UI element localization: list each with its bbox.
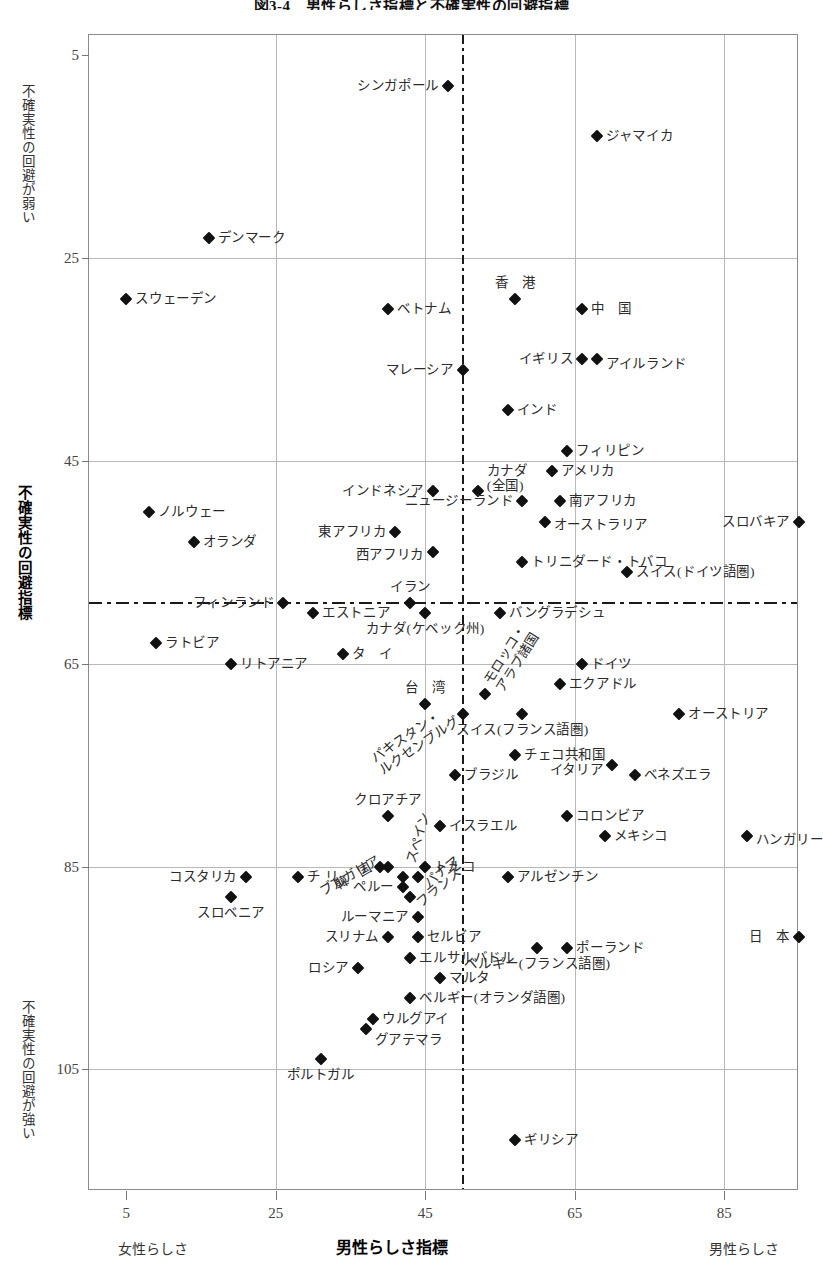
data-point-label: コスタリカ — [169, 869, 237, 884]
data-point-marker[interactable] — [277, 596, 290, 609]
data-point-marker[interactable] — [516, 556, 529, 569]
data-point-marker[interactable] — [441, 79, 454, 92]
data-point-marker[interactable] — [740, 830, 753, 843]
data-point-marker[interactable] — [225, 891, 238, 904]
data-point-marker[interactable] — [352, 962, 365, 975]
data-point-marker[interactable] — [404, 951, 417, 964]
data-point-marker[interactable] — [389, 526, 402, 539]
data-point-marker[interactable] — [404, 596, 417, 609]
data-point-label: エルサルバドル — [419, 950, 514, 965]
data-point-marker[interactable] — [187, 536, 200, 549]
data-point-label: マルタ — [449, 971, 490, 986]
data-point-marker[interactable] — [546, 465, 559, 478]
data-point-marker[interactable] — [359, 1022, 372, 1035]
data-point-label: ロシア — [308, 960, 349, 975]
data-point-marker[interactable] — [494, 607, 507, 620]
y-axis-tick-mark — [82, 664, 89, 665]
data-point-marker[interactable] — [404, 992, 417, 1005]
data-point-marker[interactable] — [793, 931, 806, 944]
y-axis-lower-band-label: 不確実性の回避が強い — [14, 1000, 34, 1140]
data-point-marker[interactable] — [120, 292, 133, 305]
data-point-marker[interactable] — [314, 1053, 327, 1066]
data-point-marker[interactable] — [576, 353, 589, 366]
data-point-marker[interactable] — [411, 931, 424, 944]
data-point-marker[interactable] — [576, 302, 589, 315]
data-point-marker[interactable] — [501, 870, 514, 883]
data-point-marker[interactable] — [516, 708, 529, 721]
data-point-marker[interactable] — [411, 911, 424, 924]
data-point-marker[interactable] — [202, 231, 215, 244]
gridline-vertical — [276, 35, 277, 1189]
data-point-marker[interactable] — [479, 688, 492, 701]
data-point-marker[interactable] — [456, 708, 469, 721]
data-point-label: エストニア — [322, 606, 390, 621]
x-axis-tick-mark — [276, 1191, 277, 1200]
data-point-marker[interactable] — [561, 444, 574, 457]
data-point-marker[interactable] — [509, 749, 522, 762]
data-point-label: シンガポール — [357, 78, 439, 93]
data-point-label: スペイン — [405, 810, 434, 864]
data-point-label: コロンビア — [576, 808, 644, 823]
data-point-marker[interactable] — [307, 607, 320, 620]
data-point-label: スウェーデン — [135, 291, 217, 306]
data-point-label: スイス(ドイツ語圏) — [636, 565, 755, 580]
data-point-marker[interactable] — [539, 515, 552, 528]
data-point-marker[interactable] — [142, 505, 155, 518]
data-point-marker[interactable] — [576, 657, 589, 670]
x-axis-tick-mark — [425, 1191, 426, 1200]
data-point-marker[interactable] — [434, 972, 447, 985]
data-point-marker[interactable] — [606, 759, 619, 772]
data-point-marker[interactable] — [673, 708, 686, 721]
data-point-marker[interactable] — [240, 870, 253, 883]
data-point-marker[interactable] — [382, 809, 395, 822]
data-point-label: イタリア — [550, 762, 603, 777]
data-point-marker[interactable] — [382, 931, 395, 944]
data-point-marker[interactable] — [292, 870, 305, 883]
data-point-marker[interactable] — [509, 292, 522, 305]
data-point-label: モロッコ・アラブ諸国 — [482, 623, 542, 695]
data-point-marker[interactable] — [531, 941, 544, 954]
data-point-marker[interactable] — [397, 880, 410, 893]
data-point-label: マレーシア — [386, 362, 454, 377]
data-point-marker[interactable] — [561, 809, 574, 822]
data-point-label: ペルー — [353, 879, 394, 894]
x-axis-tick-label: 25 — [256, 1205, 296, 1222]
data-point-label: スロバキア — [722, 514, 790, 529]
data-point-marker[interactable] — [516, 495, 529, 508]
data-point-marker[interactable] — [598, 830, 611, 843]
data-point-marker[interactable] — [793, 515, 806, 528]
data-point-marker[interactable] — [553, 678, 566, 691]
data-point-marker[interactable] — [456, 363, 469, 376]
data-point-label: スロベニア — [197, 906, 265, 921]
data-point-marker[interactable] — [150, 637, 163, 650]
y-axis-tick-mark — [82, 258, 89, 259]
data-point-label: ニュージーランド — [405, 494, 514, 509]
y-axis-tick-label: 45 — [45, 452, 79, 469]
data-point-marker[interactable] — [434, 820, 447, 833]
data-point-marker[interactable] — [501, 404, 514, 417]
data-point-label: イラン — [390, 579, 431, 594]
data-point-marker[interactable] — [419, 607, 432, 620]
y-axis-tick-label: 5 — [45, 47, 79, 64]
data-point-marker[interactable] — [509, 1134, 522, 1147]
data-point-marker[interactable] — [382, 302, 395, 315]
data-point-label: ドイツ — [591, 656, 632, 671]
data-point-label: チリ — [307, 869, 343, 884]
data-point-marker[interactable] — [419, 698, 432, 711]
data-point-marker[interactable] — [337, 647, 350, 660]
y-axis-tick-label: 85 — [45, 858, 79, 875]
data-point-marker[interactable] — [561, 941, 574, 954]
data-point-marker[interactable] — [225, 657, 238, 670]
data-point-marker[interactable] — [553, 495, 566, 508]
data-point-marker[interactable] — [426, 546, 439, 559]
data-point-label: フィリピン — [576, 443, 644, 458]
data-point-marker[interactable] — [628, 769, 641, 782]
plot-area: 525456585105525456585シンガポールジャマイカデンマークスウェ… — [88, 34, 798, 1190]
data-point-marker[interactable] — [591, 130, 604, 143]
data-point-marker[interactable] — [367, 1012, 380, 1025]
data-point-label: ハンガリー — [756, 833, 823, 848]
data-point-label: オーストリア — [688, 707, 769, 722]
data-point-marker[interactable] — [449, 769, 462, 782]
data-point-marker[interactable] — [591, 353, 604, 366]
gridline-horizontal — [89, 1069, 797, 1070]
